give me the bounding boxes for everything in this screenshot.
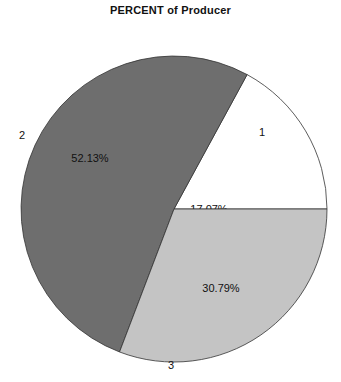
pie-chart: 17.07%152.13%230.79%3 — [0, 0, 341, 382]
slice-category-label: 2 — [19, 129, 25, 141]
slice-percent-label: 52.13% — [71, 152, 109, 164]
slice-category-label: 1 — [259, 126, 265, 138]
slice-percent-label: 30.79% — [202, 282, 240, 294]
slice-category-label: 3 — [168, 359, 174, 371]
